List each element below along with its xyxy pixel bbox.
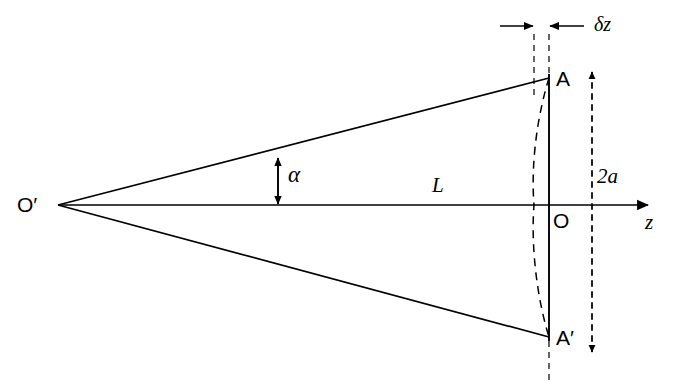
label-axis: z — [645, 212, 653, 233]
label-aperture-bottom-text: A — [556, 326, 570, 349]
label-defocus: δz — [594, 14, 611, 34]
diagram-canvas — [0, 0, 699, 389]
label-aperture-bottom: A′ — [556, 327, 574, 348]
lower-ray — [58, 205, 549, 337]
optics-ray-diagram: O′ A A′ O z L 2a α δz — [0, 0, 699, 389]
label-focus-point: O — [553, 210, 569, 231]
wavefront-arc — [533, 78, 549, 337]
label-aperture-bottom-prime: ′ — [570, 326, 574, 349]
label-source-point: O′ — [17, 194, 37, 215]
label-distance: L — [432, 175, 444, 196]
label-aperture-top: A — [556, 68, 570, 89]
upper-ray — [58, 78, 549, 205]
label-aperture-size: 2a — [597, 166, 618, 187]
label-angle: α — [288, 163, 300, 186]
label-source-point-prime: ′ — [33, 193, 37, 216]
label-source-point-text: O — [17, 193, 33, 216]
